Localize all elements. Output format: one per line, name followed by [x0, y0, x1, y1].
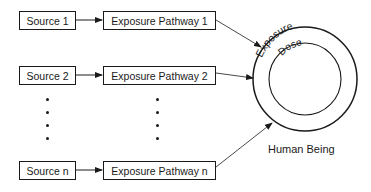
source-n-label: Source n [26, 165, 68, 177]
pathway-n-label: Exposure Pathway n [111, 165, 207, 177]
source-n-box: Source n [19, 161, 76, 180]
arrow-pathway2-human [216, 73, 253, 78]
ellipsis-dot [46, 137, 49, 140]
dose-label: Dose [276, 36, 303, 57]
ellipsis-dot [156, 111, 159, 114]
ellipsis-dot [156, 137, 159, 140]
pathway-2-label: Exposure Pathway 2 [111, 70, 207, 82]
source-2-label: Source 2 [26, 70, 68, 82]
ellipsis-dot [46, 98, 49, 101]
arrow-pathwayn-human [216, 123, 272, 167]
source-1-box: Source 1 [19, 11, 76, 30]
ellipsis-dot [156, 124, 159, 127]
ellipsis-dot [46, 124, 49, 127]
pathway-2-box: Exposure Pathway 2 [103, 66, 216, 85]
ellipsis-dot [46, 111, 49, 114]
dose-ring [269, 43, 341, 115]
source-1-label: Source 1 [26, 15, 68, 27]
arrow-pathway1-human [216, 20, 261, 47]
source-2-box: Source 2 [19, 66, 76, 85]
ellipsis-dot [156, 98, 159, 101]
human-being-label: Human Being [268, 143, 335, 155]
pathway-n-box: Exposure Pathway n [103, 161, 216, 180]
exposure-label: Exposure [253, 19, 294, 59]
pathway-1-label: Exposure Pathway 1 [111, 15, 207, 27]
pathway-1-box: Exposure Pathway 1 [103, 11, 216, 30]
